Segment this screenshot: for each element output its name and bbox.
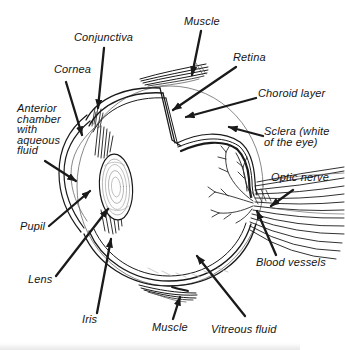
- label-lens: Lens: [28, 274, 52, 285]
- eye-anatomy-diagram: Muscle Conjunctiva Cornea Retina Choroid…: [0, 0, 345, 350]
- label-muscle-bottom: Muscle: [152, 322, 188, 333]
- cutaway-layers: [160, 88, 257, 197]
- label-vitreous-fluid: Vitreous fluid: [211, 324, 277, 335]
- label-iris: Iris: [82, 314, 97, 325]
- label-retina: Retina: [233, 52, 266, 63]
- muscle-top-shape: [140, 63, 208, 87]
- label-conjunctiva: Conjunctiva: [74, 32, 133, 43]
- label-cornea: Cornea: [54, 64, 91, 75]
- label-optic-nerve: Optic nerve: [271, 172, 329, 183]
- scan-artifact: [0, 343, 300, 350]
- label-muscle-top: Muscle: [184, 16, 220, 27]
- arrow-pupil: [49, 191, 90, 226]
- arrow-conjunctiva: [98, 48, 104, 108]
- label-blood-vessels: Blood vessels: [256, 257, 326, 268]
- label-anterior-chamber: Anterior chamber with aqueous fluid: [17, 103, 61, 156]
- lens-shape: [97, 153, 135, 221]
- muscle-bottom-shape: [139, 285, 197, 302]
- arrow-choroid: [186, 98, 256, 117]
- label-choroid-layer: Choroid layer: [258, 88, 325, 99]
- label-sclera: Sclera (white of the eye): [264, 126, 330, 147]
- label-pupil: Pupil: [20, 221, 45, 232]
